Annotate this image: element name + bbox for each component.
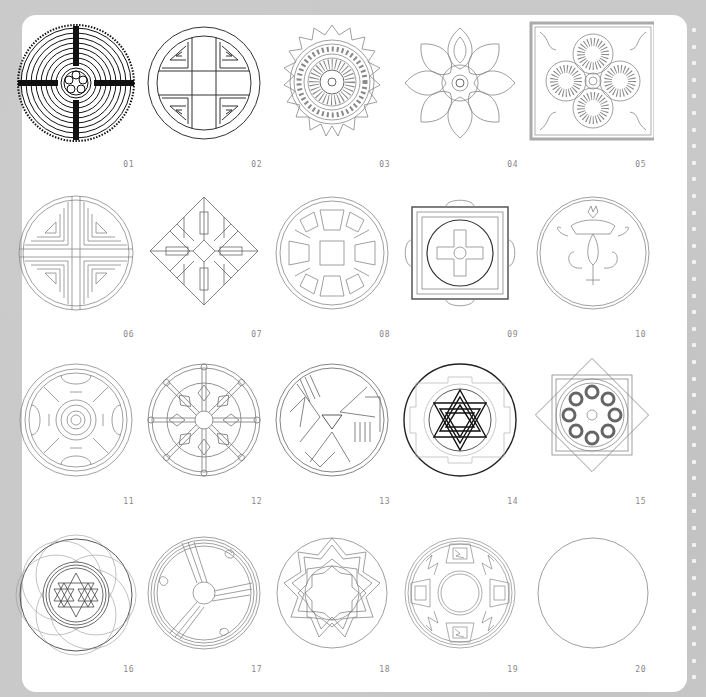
labyrinth-icon [14,20,142,160]
diamond-icon [142,190,270,330]
perforation-dot [692,194,696,198]
perforation-dot [692,28,696,32]
star-rosette-icon [270,20,398,160]
mandala-11[interactable]: 11 [14,357,142,525]
mandala-19[interactable]: 19 [398,525,526,693]
mandala-02[interactable]: 02 [142,20,270,188]
mandala-number: 01 [123,160,134,169]
perforation-dot [692,177,696,181]
perforation-dot [692,493,696,497]
sri-yantra-icon [398,357,526,497]
triskele-icon [142,525,270,665]
mandala-number: 08 [379,330,390,339]
binding-perforation-strip [692,28,696,688]
dharma-wheel-icon [142,357,270,497]
perforation-dot [692,94,696,98]
perforation-dot [692,460,696,464]
mandala-number: 20 [635,665,646,674]
perforation-dot [692,393,696,397]
perforation-dot [692,443,696,447]
floral-icon [398,20,526,160]
mandala-05[interactable]: 05 [526,20,654,188]
perforation-dot [692,659,696,663]
perforation-dot [692,476,696,480]
mandala-number: 13 [379,497,390,506]
perforation-dot [692,360,696,364]
perforation-dot [692,377,696,381]
mandala-number: 07 [251,330,262,339]
mandala-17[interactable]: 17 [142,525,270,693]
perforation-dot [692,526,696,530]
mandala-04[interactable]: 04 [398,20,526,188]
pottery-ring-icon [398,525,526,665]
mandala-number: 14 [507,497,518,506]
mandala-number: 19 [507,665,518,674]
mandala-09[interactable]: 09 [398,190,526,358]
mandala-number: 04 [507,160,518,169]
perforation-dot [692,509,696,513]
mandala-20[interactable]: 20 [526,525,654,693]
perforation-dot [692,410,696,414]
perforation-dot [692,675,696,679]
mandala-16[interactable]: 16 [14,525,142,693]
perforation-dot [692,144,696,148]
star-medallion-icon [526,357,654,497]
mandala-number: 18 [379,665,390,674]
floral-tile-icon [526,20,654,160]
perforation-dot [692,609,696,613]
perforation-dot [692,277,696,281]
lotus-icon [526,190,654,330]
perforation-dot [692,592,696,596]
mandala-number: 15 [635,497,646,506]
mandala-number: 10 [635,330,646,339]
blank-circle-icon [526,525,654,665]
mandala-18[interactable]: 18 [270,525,398,693]
perforation-dot [692,61,696,65]
quadrant-circle-icon [14,190,142,330]
mandala-01[interactable]: 01 [14,20,142,188]
square-mandala-icon [398,190,526,330]
mandala-number: 05 [635,160,646,169]
perforation-dot [692,559,696,563]
mandala-08[interactable]: 08 [270,190,398,358]
perforation-dot [692,626,696,630]
mandala-03[interactable]: 03 [270,20,398,188]
star-lattice-icon [14,525,142,665]
perforation-dot [692,327,696,331]
mandala-number: 17 [251,665,262,674]
perforation-dot [692,111,696,115]
mandala-12[interactable]: 12 [142,357,270,525]
ornamental-cross-icon [14,357,142,497]
perforation-dot [692,310,696,314]
perforation-dot [692,128,696,132]
perforation-dot [692,426,696,430]
mandala-07[interactable]: 07 [142,190,270,358]
mandala-number: 16 [123,665,134,674]
perforation-dot [692,244,696,248]
perforation-dot [692,543,696,547]
mandala-number: 11 [123,497,134,506]
mandala-13[interactable]: 13 [270,357,398,525]
fret-cross-icon [142,20,270,160]
perforation-dot [692,576,696,580]
perforation-dot [692,642,696,646]
tribal-bird-icon [270,357,398,497]
perforation-dot [692,294,696,298]
perforation-dot [692,78,696,82]
mandala-15[interactable]: 15 [526,357,654,525]
interlace-wheel-icon [270,190,398,330]
mandala-10[interactable]: 10 [526,190,654,358]
mandala-14[interactable]: 14 [398,357,526,525]
mandala-number: 12 [251,497,262,506]
mandala-number: 02 [251,160,262,169]
mandala-number: 09 [507,330,518,339]
mandala-number: 03 [379,160,390,169]
perforation-dot [692,161,696,165]
mandala-number: 06 [123,330,134,339]
perforation-dot [692,260,696,264]
perforation-dot [692,343,696,347]
perforation-dot [692,227,696,231]
zigzag-ring-icon [270,525,398,665]
perforation-dot [692,45,696,49]
mandala-06[interactable]: 06 [14,190,142,358]
